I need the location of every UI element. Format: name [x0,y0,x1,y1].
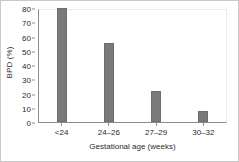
y-axis-tick-mark [32,51,35,52]
y-axis-tick-mark [32,123,35,124]
y-axis-tick-mark [32,23,35,24]
bar-series [39,10,226,122]
x-axis-tick-label: 24–26 [98,128,120,139]
bar [151,91,161,122]
x-axis-tick-label: <24 [55,128,69,139]
y-axis-tick-mark [32,37,35,38]
y-axis-tick-mark [32,108,35,109]
plot-area [38,9,227,123]
y-axis-tick-label: 60 [22,33,31,42]
y-axis-title-text: BPD (%) [6,46,15,78]
bar [198,111,208,122]
x-axis-tick-slot: 27–29 [133,123,180,139]
y-axis-tick-label: 10 [22,104,31,113]
y-axis-tick-mark [32,66,35,67]
bar-slot [86,10,133,122]
y-axis-tick-label: 50 [22,47,31,56]
x-axis-tick-mark [203,123,204,126]
x-axis-tick-slot: <24 [38,123,85,139]
x-axis-tick-slot: 30–32 [180,123,227,139]
y-axis-tick-label: 20 [22,90,31,99]
y-axis-tick-label: 40 [22,62,31,71]
y-axis-tick-label: 30 [22,76,31,85]
bar [57,8,67,122]
bar-slot [133,10,180,122]
x-axis-tick-label: 30–32 [192,128,214,139]
y-axis-tick-label: 70 [22,19,31,28]
x-axis-tick-labels: <2424–2627–2930–32 [38,123,227,139]
x-axis-tick-slot: 24–26 [85,123,132,139]
bar-slot [179,10,226,122]
x-axis-title: Gestational age (weeks) [38,142,227,151]
bar-slot [39,10,86,122]
x-axis-tick-label: 27–29 [145,128,167,139]
y-axis-tick-mark [32,80,35,81]
bar [104,43,114,122]
x-axis-tick-mark [61,123,62,126]
chart-figure: BPD (%) 01020304050607080 <2424–2627–293… [0,0,239,162]
x-axis-tick-mark [156,123,157,126]
y-axis-tick-labels: 01020304050607080 [15,9,35,123]
y-axis-tick-label: 80 [22,5,31,14]
y-axis-tick-mark [32,9,35,10]
x-axis-tick-mark [108,123,109,126]
y-axis-tick-mark [32,94,35,95]
y-axis-tick-label: 0 [27,119,31,128]
